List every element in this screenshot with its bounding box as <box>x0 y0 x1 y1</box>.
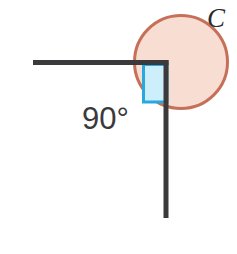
geometry-diagram: 90° C <box>0 0 237 254</box>
vertex-label-c: C <box>207 3 226 33</box>
right-angle-marker <box>144 65 168 103</box>
diagram-canvas: 90° C <box>0 0 237 254</box>
angle-measure-label: 90° <box>82 101 129 136</box>
